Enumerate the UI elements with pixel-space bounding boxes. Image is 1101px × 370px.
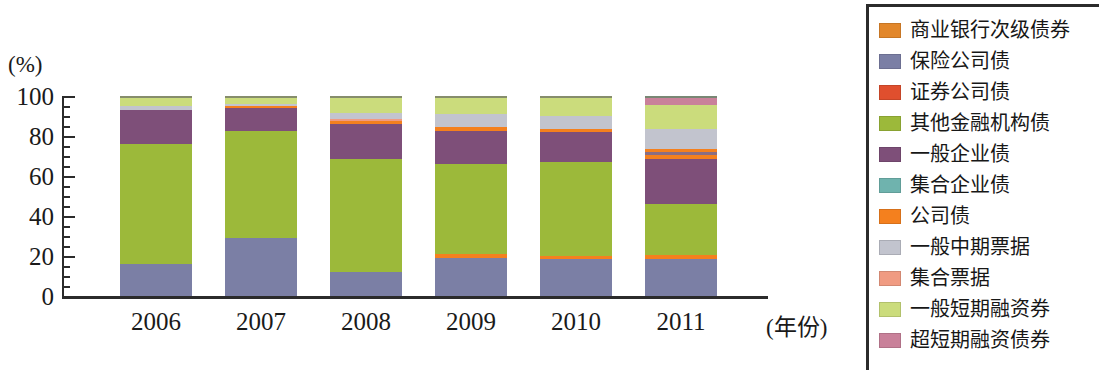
legend-item[interactable]: 保险公司债	[879, 46, 1099, 76]
legend-item-label: 集合票据	[910, 268, 990, 288]
legend-item[interactable]: 一般中期票据	[879, 232, 1099, 262]
bar-2011[interactable]	[645, 96, 717, 296]
chart-root: (%) 020406080100 20062007200820092010201…	[0, 0, 1101, 370]
y-tick-label: 100	[0, 84, 54, 109]
bar-segment[interactable]	[330, 272, 402, 296]
y-tick-minor	[64, 276, 70, 278]
y-tick-minor	[64, 146, 70, 148]
legend-swatch-icon	[879, 54, 901, 69]
bar-segment[interactable]	[645, 129, 717, 149]
y-tick-minor	[64, 226, 70, 228]
bar-segment[interactable]	[225, 131, 297, 238]
y-tick-major	[64, 256, 75, 258]
y-tick-minor	[64, 186, 70, 188]
x-axis-unit-label: (年份)	[766, 308, 827, 342]
legend-swatch-icon	[879, 147, 901, 162]
y-tick-major	[64, 176, 75, 178]
bar-segment[interactable]	[330, 96, 402, 113]
bar-segment[interactable]	[120, 264, 192, 296]
bar-segment[interactable]	[645, 159, 717, 204]
bar-top-rule	[435, 96, 507, 98]
legend-item-label: 超短期融资债券	[910, 330, 1050, 350]
bar-top-rule	[120, 96, 192, 98]
bar-segment[interactable]	[120, 110, 192, 144]
legend-item[interactable]: 商业银行次级债券	[879, 15, 1099, 45]
legend-item-label: 一般企业债	[910, 144, 1010, 164]
legend-swatch-icon	[879, 240, 901, 255]
legend-item[interactable]: 证券公司债	[879, 77, 1099, 107]
bar-segment[interactable]	[540, 132, 612, 162]
bar-segment[interactable]	[540, 96, 612, 116]
x-tick-label: 2008	[306, 308, 426, 336]
y-tick-label: 80	[0, 124, 54, 149]
y-tick-minor	[64, 266, 70, 268]
x-tick-label: 2009	[411, 308, 531, 336]
y-tick-minor	[64, 196, 70, 198]
bar-2006[interactable]	[120, 96, 192, 296]
bar-segment[interactable]	[645, 105, 717, 129]
y-tick-label: 60	[0, 164, 54, 189]
legend-swatch-icon	[879, 85, 901, 100]
bar-segment[interactable]	[225, 238, 297, 296]
legend-panel: 商业银行次级债券保险公司债证券公司债其他金融机构债一般企业债集合企业债公司债一般…	[866, 4, 1099, 370]
bar-top-rule	[645, 96, 717, 98]
y-tick-minor	[64, 206, 70, 208]
bar-2008[interactable]	[330, 96, 402, 296]
bar-2009[interactable]	[435, 96, 507, 296]
y-tick-minor	[64, 236, 70, 238]
legend-item[interactable]: 一般企业债	[879, 139, 1099, 169]
bar-segment[interactable]	[330, 124, 402, 159]
bar-segment[interactable]	[435, 131, 507, 164]
x-tick-label: 2007	[201, 308, 321, 336]
bar-segment[interactable]	[435, 164, 507, 254]
y-tick-major	[64, 136, 75, 138]
legend-swatch-icon	[879, 178, 901, 193]
legend-item[interactable]: 公司债	[879, 201, 1099, 231]
bar-2007[interactable]	[225, 96, 297, 296]
y-tick-major	[64, 216, 75, 218]
plot-area: 020406080100 200620072008200920102011	[62, 96, 762, 296]
y-tick-major	[64, 96, 75, 98]
y-axis-unit-label: (%)	[8, 52, 42, 78]
bar-segment[interactable]	[540, 259, 612, 296]
legend-item[interactable]: 集合票据	[879, 263, 1099, 293]
y-tick-minor	[64, 156, 70, 158]
bar-segment[interactable]	[435, 114, 507, 127]
bar-2010[interactable]	[540, 96, 612, 296]
chart-panel: (%) 020406080100 20062007200820092010201…	[0, 0, 860, 370]
legend-swatch-icon	[879, 302, 901, 317]
bar-segment[interactable]	[120, 144, 192, 264]
legend-item-label: 其他金融机构债	[910, 113, 1050, 133]
legend-item[interactable]: 其他金融机构债	[879, 108, 1099, 138]
bar-segment[interactable]	[225, 108, 297, 131]
legend-item[interactable]: 超短期融资债券	[879, 325, 1099, 355]
bar-segment[interactable]	[540, 116, 612, 129]
y-tick-label: 20	[0, 244, 54, 269]
legend-item[interactable]: 一般短期融资券	[879, 294, 1099, 324]
bar-segment[interactable]	[645, 259, 717, 296]
legend-item-label: 集合企业债	[910, 175, 1010, 195]
y-tick-minor	[64, 116, 70, 118]
legend-item-label: 一般中期票据	[910, 237, 1030, 257]
bar-segment[interactable]	[540, 162, 612, 256]
bar-segment[interactable]	[330, 159, 402, 272]
y-tick-minor	[64, 246, 70, 248]
bar-segment[interactable]	[435, 258, 507, 296]
y-tick-minor	[64, 126, 70, 128]
y-tick-minor	[64, 286, 70, 288]
legend-swatch-icon	[879, 271, 901, 286]
legend-item-label: 商业银行次级债券	[910, 20, 1070, 40]
legend-item-label: 一般短期融资券	[910, 299, 1050, 319]
bar-segment[interactable]	[435, 96, 507, 114]
x-axis-line	[62, 296, 768, 299]
legend-swatch-icon	[879, 23, 901, 38]
bar-top-rule	[330, 96, 402, 98]
y-tick-minor	[64, 106, 70, 108]
legend-swatch-icon	[879, 333, 901, 348]
bar-segment[interactable]	[645, 98, 717, 105]
x-tick-label: 2006	[96, 308, 216, 336]
legend-item[interactable]: 集合企业债	[879, 170, 1099, 200]
legend-swatch-icon	[879, 209, 901, 224]
legend-swatch-icon	[879, 116, 901, 131]
bar-segment[interactable]	[645, 204, 717, 255]
